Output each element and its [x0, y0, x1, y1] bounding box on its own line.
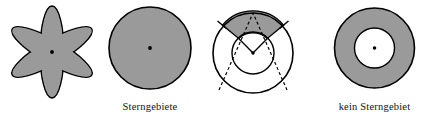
figure-star-flower: [0, 0, 104, 100]
sector-radius-right: [253, 39, 267, 54]
caption-kein-sterngebiet: kein Sterngebiet: [310, 101, 439, 112]
figure-sector: [196, 0, 310, 100]
center-dot-icon: [148, 46, 152, 50]
center-dot-icon: [373, 46, 377, 50]
center-dot-icon: [251, 51, 254, 54]
figure-panel: Sterngebiete kein Sterngebiet: [0, 0, 439, 120]
figure-disk: [104, 0, 196, 100]
sector-radius-left: [239, 39, 253, 54]
figure-annulus: [310, 0, 439, 100]
center-dot-icon: [50, 50, 54, 54]
annulus-svg: [310, 0, 439, 100]
sector-svg: [196, 0, 310, 100]
disk-svg: [104, 0, 196, 100]
caption-sterngebiete: Sterngebiete: [104, 101, 196, 112]
star-flower-svg: [0, 0, 104, 100]
shaded-annular-sector: [222, 11, 283, 39]
